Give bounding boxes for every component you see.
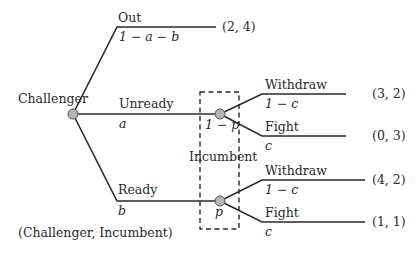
ready-fight-prob: c	[265, 225, 272, 239]
unready-withdraw-label: Withdraw	[265, 78, 327, 92]
out-label: Out	[118, 11, 141, 25]
unready-prob: a	[119, 117, 126, 131]
ready-fight-payoff: (1, 1)	[372, 215, 406, 229]
challenger-label: Challenger	[18, 92, 88, 106]
ready-prob: b	[118, 204, 126, 218]
ready-label: Ready	[118, 183, 157, 197]
ready-withdraw-prob: 1 − c	[265, 183, 298, 197]
ready-withdraw-label: Withdraw	[265, 164, 327, 178]
out-payoff: (2, 4)	[222, 20, 256, 34]
out-prob: 1 − a − b	[119, 30, 179, 44]
payoff-legend: (Challenger, Incumbent)	[18, 226, 173, 240]
unready-fight-payoff: (0, 3)	[372, 129, 406, 143]
unready-fight-label: Fight	[265, 120, 299, 134]
ready-fight-label: Fight	[265, 206, 299, 220]
unready-fight-prob: c	[265, 139, 272, 153]
incumbent-label: Incumbent	[189, 150, 257, 164]
unready-withdraw-prob: 1 − c	[265, 97, 298, 111]
unready-withdraw-payoff: (3, 2)	[372, 87, 406, 101]
ready-belief-prob: p	[215, 205, 223, 219]
challenger-node	[68, 109, 78, 119]
unready-label: Unready	[119, 97, 173, 111]
ready-withdraw-payoff: (4, 2)	[372, 173, 406, 187]
unready-belief-prob: 1 − p	[205, 118, 239, 132]
